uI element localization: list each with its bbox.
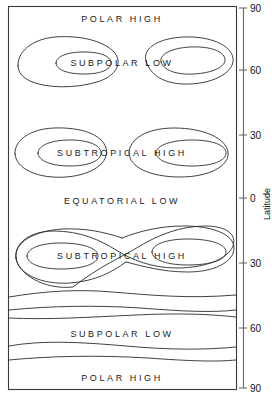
- wavy-line-5: [9, 356, 236, 361]
- label-subpolar-low-south: SUBPOLAR LOW: [70, 329, 173, 339]
- latitude-axis-title: Latitude: [262, 188, 272, 220]
- wavy-line-2: [9, 306, 236, 311]
- label-polar-high-south: POLAR HIGH: [81, 373, 163, 383]
- tick-label-30s: 30: [250, 258, 262, 269]
- subpolar-low-south-wavy-lines: [9, 291, 236, 361]
- label-subtropical-high-south: SUBTROPICAL HIGH: [57, 251, 187, 261]
- tick-label-0: 0: [250, 193, 256, 204]
- tick-label-30n: 30: [250, 130, 262, 141]
- label-subpolar-low-north: SUBPOLAR LOW: [70, 58, 173, 68]
- wavy-line-1: [9, 291, 236, 297]
- label-subtropical-high-north: SUBTROPICAL HIGH: [57, 148, 187, 158]
- wavy-line-3: [9, 314, 236, 319]
- pressure-belt-diagram: 90 60 30 0 30 60 90 Latitude: [0, 0, 278, 400]
- label-equatorial-low: EQUATORIAL LOW: [64, 196, 180, 206]
- contour-outer-lobe-se: [122, 226, 234, 272]
- tick-label-90n: 90: [250, 3, 262, 14]
- tick-label-60s: 60: [250, 323, 262, 334]
- label-polar-high-north: POLAR HIGH: [81, 14, 163, 24]
- tick-label-90s: 90: [250, 383, 262, 394]
- diagram-canvas: 90 60 30 0 30 60 90 Latitude: [0, 0, 278, 400]
- wavy-line-4: [9, 342, 236, 349]
- tick-label-60n: 60: [250, 65, 262, 76]
